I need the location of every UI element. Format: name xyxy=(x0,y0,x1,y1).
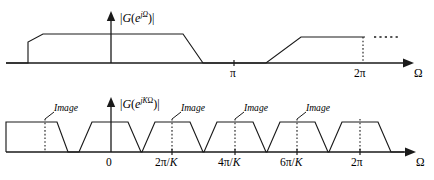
image-annotation-2: Image xyxy=(181,103,205,113)
bottom-tick-label-4pi-over-k: 4π/K xyxy=(218,157,240,169)
image-leader-4 xyxy=(297,112,306,119)
bottom-tick-label-0: 0 xyxy=(106,157,112,169)
bottom-y-axis-arrowhead xyxy=(107,97,115,107)
top-y-axis-arrowhead xyxy=(107,11,115,21)
top-ylabel-exponent: jΩ xyxy=(140,10,148,19)
bottom-x-axis-arrowhead xyxy=(405,148,416,157)
image-leader-1 xyxy=(45,112,54,119)
bottom-x-axis-label: Ω xyxy=(416,157,425,169)
image-annotation-4: Image xyxy=(306,103,330,113)
top-plot-group xyxy=(6,11,414,67)
bottom-tick-label-2pi-over-k: 2π/K xyxy=(155,157,177,169)
image-leader-2 xyxy=(172,112,181,119)
image-annotation-3: Image xyxy=(244,103,268,113)
image-annotation-1: Image xyxy=(54,103,78,113)
bottom-tick-label-6pi-over-k: 6π/K xyxy=(280,157,302,169)
top-ylabel-g: G xyxy=(122,11,131,25)
top-tick-label-2pi: 2π xyxy=(354,68,366,80)
bottom-plot-y-axis-label: |G(ejKΩ)| xyxy=(120,98,160,110)
top-tick-label-pi: π xyxy=(230,68,236,80)
bottom-tick-label-2pi: 2π xyxy=(351,157,363,169)
bottom-ylabel-g: G xyxy=(122,97,131,111)
signal-spectrum-figure: |G(ejΩ)| π 2π Ω |G(ejKΩ)| 0 2π/K 4π/K 6π… xyxy=(0,0,434,180)
bottom-magnitude-curve xyxy=(6,122,404,152)
figure-canvas xyxy=(0,0,434,180)
bottom-ylabel-bar-close: | xyxy=(157,97,159,111)
top-x-axis-label: Ω xyxy=(414,68,423,80)
top-x-axis-arrowhead xyxy=(403,59,414,68)
image-leader-3 xyxy=(235,112,244,119)
top-plot-y-axis-label: |G(ejΩ)| xyxy=(120,12,154,24)
top-ylabel-bar-close: | xyxy=(152,11,154,25)
top-magnitude-curve xyxy=(6,34,365,63)
